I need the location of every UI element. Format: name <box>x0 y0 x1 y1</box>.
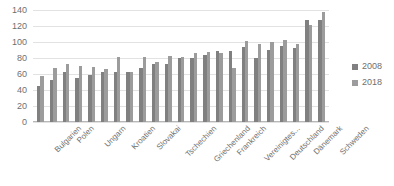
bar-2018[interactable] <box>168 56 171 122</box>
y-axis-tick-label: 40 <box>17 86 27 95</box>
bar-group[interactable] <box>200 10 213 122</box>
bar-2018[interactable] <box>270 42 273 122</box>
legend-swatch-icon <box>352 64 358 70</box>
bar-group[interactable] <box>162 10 175 122</box>
bar-2018[interactable] <box>104 69 107 122</box>
bar-group[interactable] <box>226 10 239 122</box>
bar-chart: 020406080100120140 BulgarienPolenUngarnK… <box>0 0 394 186</box>
bar-series-container <box>33 10 329 122</box>
x-axis-tick-label: Kroatien <box>129 124 156 151</box>
bar-group[interactable] <box>136 10 149 122</box>
bar-group[interactable] <box>60 10 73 122</box>
bar-group[interactable] <box>290 10 303 122</box>
bar-2018[interactable] <box>207 52 210 122</box>
bar-2018[interactable] <box>79 66 82 122</box>
bar-group[interactable] <box>47 10 60 122</box>
bar-group[interactable] <box>85 10 98 122</box>
bar-2018[interactable] <box>92 67 95 122</box>
bar-2018[interactable] <box>181 57 184 122</box>
bar-group[interactable] <box>98 10 111 122</box>
bar-2018[interactable] <box>155 62 158 122</box>
bar-2018[interactable] <box>53 68 56 122</box>
legend-swatch-icon <box>352 80 358 86</box>
bar-group[interactable] <box>187 10 200 122</box>
bar-2018[interactable] <box>296 44 299 122</box>
bar-group[interactable] <box>302 10 315 122</box>
bar-2018[interactable] <box>130 72 133 122</box>
bar-2018[interactable] <box>66 64 69 122</box>
grid-line <box>33 122 329 123</box>
bar-group[interactable] <box>34 10 47 122</box>
plot-area <box>33 10 329 122</box>
bar-2018[interactable] <box>245 41 248 122</box>
y-axis-tick-label: 140 <box>12 6 27 15</box>
y-axis-tick-label: 60 <box>17 70 27 79</box>
legend-item-2008[interactable]: 2008 <box>352 62 382 71</box>
bar-group[interactable] <box>277 10 290 122</box>
bar-2018[interactable] <box>258 44 261 122</box>
bar-2018[interactable] <box>322 12 325 122</box>
bar-group[interactable] <box>175 10 188 122</box>
x-axis-tick-label: Slovakai <box>155 124 183 152</box>
bar-group[interactable] <box>149 10 162 122</box>
bar-group[interactable] <box>123 10 136 122</box>
legend-item-2018[interactable]: 2018 <box>352 78 382 87</box>
x-axis-tick-label: Ungarn <box>103 124 128 149</box>
bar-group[interactable] <box>251 10 264 122</box>
bar-2018[interactable] <box>143 57 146 122</box>
legend-label: 2018 <box>362 78 382 87</box>
bar-group[interactable] <box>72 10 85 122</box>
y-axis-tick-label: 120 <box>12 22 27 31</box>
y-axis-tick-label: 20 <box>17 102 27 111</box>
bar-group[interactable] <box>111 10 124 122</box>
x-axis-labels: BulgarienPolenUngarnKroatienSlovakaiTsch… <box>33 124 329 186</box>
bar-2018[interactable] <box>117 57 120 122</box>
bar-2018[interactable] <box>232 68 235 122</box>
bar-2018[interactable] <box>194 53 197 122</box>
y-axis-tick-label: 100 <box>12 38 27 47</box>
x-axis-tick-label: Tschechien <box>184 124 219 159</box>
y-axis: 020406080100120140 <box>0 0 30 122</box>
bar-2018[interactable] <box>219 53 222 122</box>
chart-legend: 20082018 <box>352 62 382 87</box>
bar-2018[interactable] <box>40 76 43 122</box>
bar-group[interactable] <box>213 10 226 122</box>
bar-group[interactable] <box>315 10 328 122</box>
bar-2018[interactable] <box>309 25 312 122</box>
bar-group[interactable] <box>239 10 252 122</box>
y-axis-tick-label: 0 <box>22 118 27 127</box>
bar-2018[interactable] <box>283 40 286 122</box>
legend-label: 2008 <box>362 62 382 71</box>
bar-group[interactable] <box>264 10 277 122</box>
y-axis-tick-label: 80 <box>17 54 27 63</box>
